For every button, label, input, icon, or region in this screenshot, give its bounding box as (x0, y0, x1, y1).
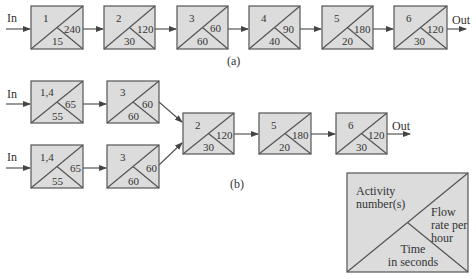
flow-rate: 120 (368, 130, 385, 141)
time-seconds: 55 (52, 111, 63, 122)
time-seconds: 55 (52, 176, 63, 187)
activity-number: 1,4 (40, 87, 54, 98)
activity-number: 1,4 (40, 152, 54, 163)
time-seconds: 40 (269, 36, 280, 47)
activity-number: 3 (120, 152, 126, 163)
time-seconds: 30 (203, 142, 214, 153)
time-seconds: 30 (124, 36, 135, 47)
legend-activity-line-2: number(s) (356, 198, 405, 211)
time-seconds: 60 (128, 111, 139, 122)
flow-rate: 65 (70, 163, 81, 174)
time-seconds: 60 (197, 36, 208, 47)
legend-flow-label: Flow rate per hour (431, 206, 467, 245)
process-flow-diagram (0, 0, 476, 279)
activity-number: 6 (406, 13, 412, 24)
caption-b: (b) (230, 178, 244, 190)
flow-rate: 60 (210, 23, 221, 34)
activity-number: 4 (261, 13, 267, 24)
activity-number: 6 (348, 120, 354, 131)
flow-rate: 240 (64, 24, 81, 35)
time-seconds: 15 (52, 36, 63, 47)
arrow-b2-merge (159, 143, 182, 165)
flow-rate: 90 (283, 24, 294, 35)
time-seconds: 30 (356, 142, 367, 153)
time-seconds: 20 (342, 36, 353, 47)
activity-number: 1 (43, 13, 49, 24)
legend-activity-label: Activity number(s) (356, 185, 405, 211)
flow-rate: 60 (146, 163, 157, 174)
time-seconds: 60 (128, 176, 139, 187)
legend-time-label: Time in seconds (380, 243, 446, 269)
output-label-a: Out (452, 14, 470, 26)
activity-number: 3 (120, 87, 126, 98)
flow-rate: 120 (427, 24, 444, 35)
flow-rate: 180 (354, 24, 371, 35)
activity-number: 5 (271, 120, 277, 131)
flow-rate: 180 (292, 130, 309, 141)
flow-rate: 65 (65, 99, 76, 110)
activity-number: 3 (189, 13, 195, 24)
arrow-b1-merge (159, 102, 182, 122)
activity-number: 5 (334, 13, 340, 24)
time-seconds: 20 (279, 142, 290, 153)
output-label-b: Out (392, 120, 410, 132)
flow-rate: 60 (142, 99, 153, 110)
flow-rate: 120 (137, 24, 154, 35)
caption-a: (a) (227, 55, 240, 67)
input-label-a: In (7, 12, 17, 24)
activity-number: 2 (195, 120, 201, 131)
flow-rate: 120 (216, 130, 233, 141)
time-seconds: 30 (414, 36, 425, 47)
activity-number: 2 (116, 13, 122, 24)
legend-time-line-2: in seconds (380, 256, 446, 269)
input-label-b2: In (7, 151, 17, 163)
input-label-b1: In (7, 88, 17, 100)
